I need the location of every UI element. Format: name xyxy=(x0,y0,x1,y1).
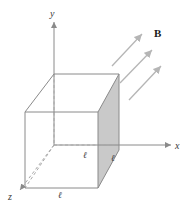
cube-edge-label-depth: ℓ xyxy=(83,151,87,160)
cube-shaded-face xyxy=(98,74,119,188)
field-arrow-1 xyxy=(112,34,142,66)
physics-diagram: y x z ℓ ℓ ℓ B xyxy=(0,0,189,209)
cube-hidden-edge-depth xyxy=(25,145,54,188)
z-axis-label: z xyxy=(8,192,12,202)
field-arrow-3 xyxy=(129,66,161,100)
cube-edge-top-left xyxy=(25,74,54,112)
magnetic-field-label: B xyxy=(154,28,161,39)
cube-edge-label-width: ℓ xyxy=(111,154,115,163)
y-axis-label: y xyxy=(50,9,54,19)
field-arrow-2 xyxy=(120,50,152,83)
cube-edge-label-bottom: ℓ xyxy=(58,191,62,200)
x-axis-label: x xyxy=(175,141,179,151)
